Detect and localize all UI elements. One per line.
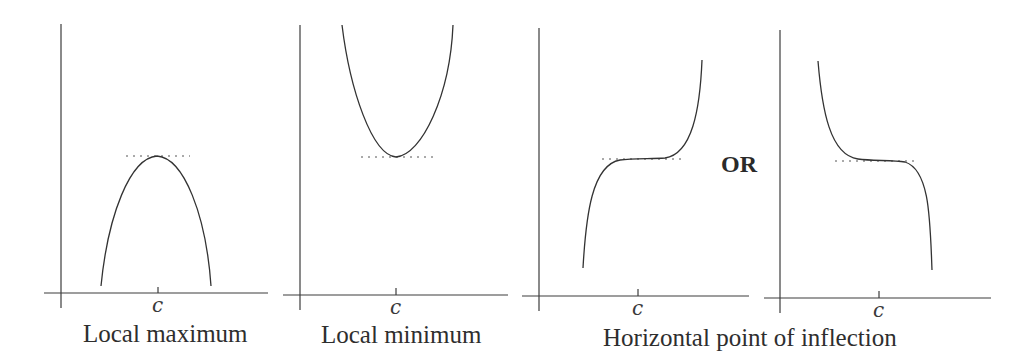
panel-inflection-decreasing: c [764,30,991,322]
min-curve [342,25,453,157]
panel-local-maximum: c Local maximum [44,24,268,347]
caption-horizontal-inflection: Horizontal point of inflection [603,324,897,351]
tick-label-c: c [152,293,163,317]
tick-label-c: c [632,296,643,320]
caption-local-maximum: Local maximum [83,320,248,347]
panel-local-minimum: c Local minimum [283,25,508,348]
stationary-points-figure: c Local maximum c Local minimum c OR c H… [0,0,1033,361]
caption-local-minimum: Local minimum [321,321,482,348]
max-curve [101,156,211,286]
panel-inflection-increasing: c [522,28,749,320]
decreasing-inflection-curve [818,61,932,270]
tick-label-c: c [390,295,401,319]
tick-label-c: c [873,298,884,322]
increasing-inflection-curve [583,60,702,268]
or-separator: OR [721,151,758,177]
